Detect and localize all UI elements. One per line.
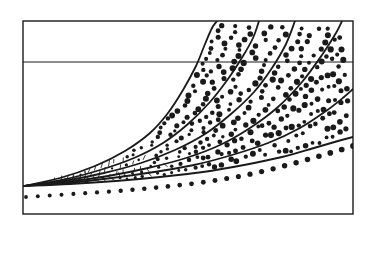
stipple-dot [247,25,252,30]
stipple-dot [277,149,281,153]
stipple-dot [289,150,293,154]
figure-root [0,0,368,254]
stipple-dot [221,135,225,139]
stipple-dot [263,153,267,157]
stipple-dot [156,135,160,139]
stipple-dot [194,72,200,78]
stipple-dot [151,140,154,143]
boundary-dot [59,193,63,197]
stipple-dot [242,111,246,115]
stipple-dot [332,84,336,88]
boundary-dot [71,192,75,196]
stipple-dot [260,89,265,94]
stipple-dot [276,130,282,136]
stipple-dot [280,25,285,30]
stipple-dot [326,27,330,31]
stipple-dot [344,113,349,118]
stipple-dot [214,98,220,104]
stipple-dot [301,131,305,135]
stipple-dot [247,31,253,37]
stipple-dot [314,80,319,85]
stipple-dot [331,135,335,139]
stipple-dot [310,102,314,106]
stipple-dot [170,171,173,174]
stipple-dot [237,48,241,52]
stipple-dot [286,139,290,143]
stipple-dot [297,61,302,66]
stipple-dot [188,152,191,155]
stipple-dot [345,98,350,103]
boundary-dot [142,186,147,191]
stipple-dot [153,161,157,165]
stipple-dot [337,35,342,40]
stipple-dot [303,94,308,99]
stipple-dot [205,73,209,77]
stipple-dot [337,129,342,134]
stipple-dot [262,63,266,67]
boundary-dot [154,185,159,190]
boundary-dot [177,183,182,188]
stipple-dot [159,150,163,154]
chart-canvas [0,0,368,254]
stipple-dot [309,112,313,116]
boundary-dot [189,181,194,186]
stipple-dot [178,150,182,154]
stipple-dot [191,83,195,87]
stipple-dot [268,132,274,138]
curve-layer [24,21,356,199]
stipple-dot [276,85,281,90]
stipple-dot [140,146,143,149]
boundary-dot [201,180,206,185]
stipple-dot [174,123,179,128]
stipple-dot [179,135,184,140]
stipple-dot [201,126,205,130]
boundary-dot [236,174,241,179]
stipple-dot [296,146,300,150]
stipple-dot [273,45,278,50]
stipple-dot [216,28,221,33]
stipple-dot [221,69,227,75]
stipple-dot [216,104,221,109]
stipple-dot [193,89,197,93]
stipple-dash [143,155,145,159]
stipple-dot [177,169,180,172]
stipple-dot [229,36,234,41]
stipple-dot [223,47,227,51]
stipple-dot [320,88,324,92]
stipple-dot [344,86,350,92]
stipple-band [62,27,331,185]
stipple-dot [276,65,281,70]
stipple-dot [271,125,276,130]
stipple-dot [283,31,289,37]
stipple-dot [210,40,214,44]
stipple-dot [165,144,168,147]
stipple-dot [241,60,247,66]
stipple-dot [220,123,226,129]
stipple-dot [212,134,216,138]
stipple-dot [343,126,348,131]
stipple-dot [241,145,246,150]
heavy-dotted-boundary-curve [24,143,356,199]
stipple-dot [263,132,268,137]
stipple-dot [157,130,162,135]
stipple-dot [343,73,347,77]
stipple-dot [231,119,237,125]
stipple-dot [170,164,174,168]
boundary-dot [36,194,40,198]
boundary-dot [316,153,322,159]
stipple-dot [332,110,337,115]
stipple-dot [229,132,234,137]
stipple-dot [166,147,169,150]
stipple-dot [231,77,235,81]
stipple-dot [132,153,135,156]
stipple-dot [159,126,163,130]
stipple-dot [300,74,304,78]
stipple-dot [262,31,268,37]
stipple-dot [194,145,198,149]
stipple-dot [219,152,223,156]
stipple-dot [228,157,234,163]
stipple-dot [308,124,313,129]
stipple-dot [184,168,188,172]
stipple-dot [210,110,215,115]
stipple-dot [132,148,136,152]
